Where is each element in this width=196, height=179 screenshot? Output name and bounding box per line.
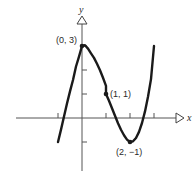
point-min	[128, 140, 133, 145]
point-inflection	[104, 92, 109, 97]
label-point-max: (0, 3)	[56, 35, 77, 45]
x-ticks	[58, 113, 154, 118]
y-axis-arrow-icon	[77, 16, 87, 24]
x-axis-arrow-icon	[176, 113, 184, 123]
label-point-inflection: (1, 1)	[110, 89, 131, 99]
y-axis-label: y	[78, 4, 84, 15]
y-ticks	[82, 46, 87, 142]
point-max	[80, 44, 85, 49]
cubic-graph: x y (0, 3) (1, 1) (2, −1)	[0, 0, 196, 179]
label-point-min: (2, −1)	[116, 147, 142, 157]
x-axis-label: x	[186, 112, 192, 123]
